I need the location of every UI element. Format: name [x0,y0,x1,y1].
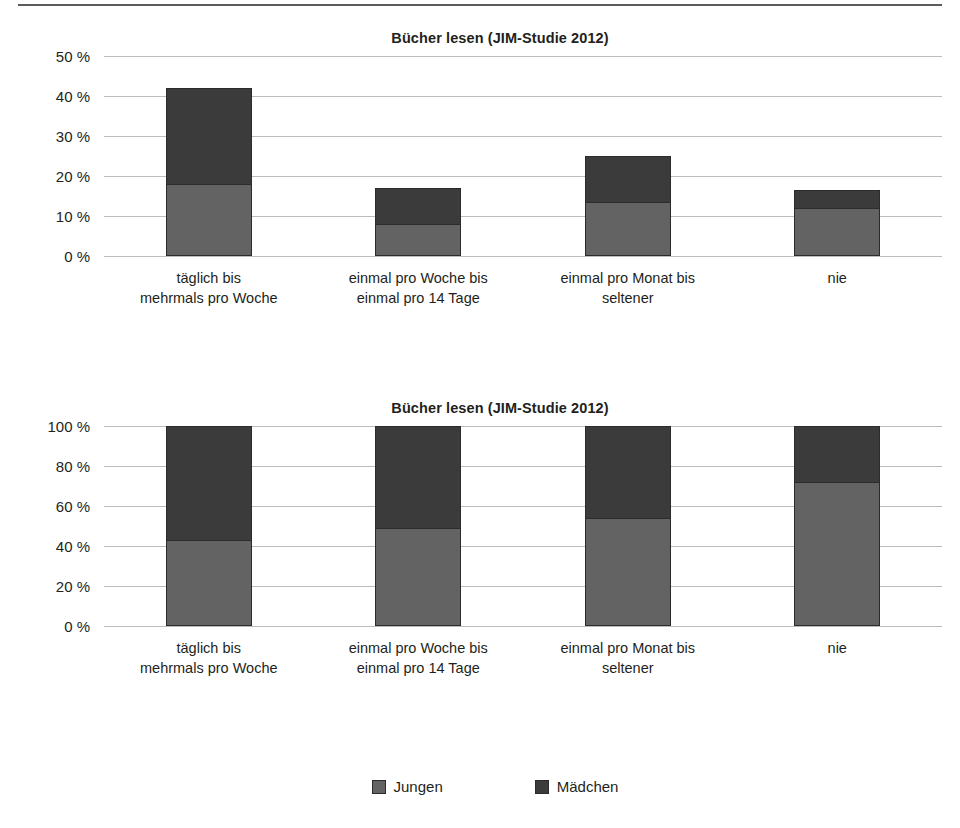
legend-item[interactable]: Jungen [372,778,443,795]
x-label-line: mehrmals pro Woche [104,658,314,678]
x-label-line: nie [733,268,943,288]
bar-segment-maedchen[interactable] [585,156,671,202]
chart-2-x-label: einmal pro Monat bisseltener [523,638,733,678]
chart-1-bar-slot [104,56,314,256]
bar-segment-jungen[interactable] [585,202,671,256]
bar-segment-jungen[interactable] [585,518,671,626]
chart-legend: JungenMädchen [0,778,960,795]
x-label-line: seltener [523,658,733,678]
chart-1-x-axis-labels: täglich bismehrmals pro Wocheeinmal pro … [104,268,942,308]
legend-item[interactable]: Mädchen [535,778,619,795]
bar-segment-maedchen[interactable] [585,426,671,518]
chart-2-plot-area [104,426,942,626]
table-row[interactable] [585,156,671,256]
table-row[interactable] [166,426,252,626]
x-label-line: einmal pro Woche bis [314,638,524,658]
x-label-line: einmal pro Woche bis [314,268,524,288]
chart-2-y-axis: 0 %20 %40 %60 %80 %100 % [0,426,98,626]
x-label-line: einmal pro Monat bis [523,638,733,658]
table-row[interactable] [375,426,461,626]
chart-2-y-tick-label: 100 % [47,418,90,435]
bar-segment-maedchen[interactable] [794,190,880,208]
x-label-line: einmal pro 14 Tage [314,658,524,678]
chart-2-x-label: täglich bismehrmals pro Woche [104,638,314,678]
bar-segment-maedchen[interactable] [375,188,461,224]
x-label-line: täglich bis [104,638,314,658]
bar-segment-jungen[interactable] [794,208,880,256]
chart-1-y-axis: 0 %10 %20 %30 %40 %50 % [0,56,98,256]
bar-segment-maedchen[interactable] [375,426,461,528]
chart-1-x-label: nie [733,268,943,308]
x-label-line: täglich bis [104,268,314,288]
chart-2-y-tick-label: 0 % [64,618,90,635]
bar-segment-maedchen[interactable] [166,88,252,184]
chart-1-plot-area [104,56,942,256]
chart-1-bar-slot [523,56,733,256]
table-row[interactable] [794,190,880,256]
chart-absolute-percentages: Bücher lesen (JIM-Studie 2012) 0 %10 %20… [0,30,960,256]
chart-2-x-label: nie [733,638,943,678]
chart-2-y-tick-label: 80 % [56,458,90,475]
table-row[interactable] [794,426,880,626]
bar-segment-jungen[interactable] [166,184,252,256]
legend-item-label: Jungen [394,778,443,795]
bar-segment-jungen[interactable] [794,482,880,626]
bar-segment-maedchen[interactable] [794,426,880,482]
x-label-line: einmal pro 14 Tage [314,288,524,308]
legend-swatch-jungen-icon [372,780,386,794]
bar-segment-jungen[interactable] [166,540,252,626]
chart-1-y-tick-label: 30 % [56,128,90,145]
bar-segment-jungen[interactable] [375,224,461,256]
chart-2-plot-wrapper: 0 %20 %40 %60 %80 %100 % täglich bismehr… [0,426,960,626]
chart-1-x-label: täglich bismehrmals pro Woche [104,268,314,308]
legend-item-label: Mädchen [557,778,619,795]
chart-2-bar-slot [733,426,943,626]
chart-1-bars [104,56,942,256]
x-label-line: einmal pro Monat bis [523,268,733,288]
chart-2-bar-slot [104,426,314,626]
chart-1-y-tick-label: 20 % [56,168,90,185]
chart-1-bar-slot [314,56,524,256]
bar-segment-maedchen[interactable] [166,426,252,540]
chart-2-bar-slot [314,426,524,626]
x-label-line: seltener [523,288,733,308]
x-label-line: nie [733,638,943,658]
chart-1-x-label: einmal pro Monat bisseltener [523,268,733,308]
chart-1-bar-slot [733,56,943,256]
chart-2-x-label: einmal pro Woche biseinmal pro 14 Tage [314,638,524,678]
table-row[interactable] [375,188,461,256]
chart-1-gridline [104,256,942,257]
chart-1-y-tick-label: 40 % [56,88,90,105]
chart-1-title: Bücher lesen (JIM-Studie 2012) [0,30,960,46]
chart-2-bar-slot [523,426,733,626]
legend-swatch-maedchen-icon [535,780,549,794]
chart-2-gridline [104,626,942,627]
chart-2-y-tick-label: 60 % [56,498,90,515]
bar-segment-jungen[interactable] [375,528,461,626]
chart-1-plot-wrapper: 0 %10 %20 %30 %40 %50 % täglich bismehrm… [0,56,960,256]
chart-1-y-tick-label: 50 % [56,48,90,65]
chart-2-y-tick-label: 40 % [56,538,90,555]
chart-1-y-tick-label: 0 % [64,248,90,265]
chart-1-x-label: einmal pro Woche biseinmal pro 14 Tage [314,268,524,308]
chart-2-bars [104,426,942,626]
table-row[interactable] [585,426,671,626]
chart-2-y-tick-label: 20 % [56,578,90,595]
table-row[interactable] [166,88,252,256]
x-label-line: mehrmals pro Woche [104,288,314,308]
page-top-rule [18,4,942,6]
chart-1-y-tick-label: 10 % [56,208,90,225]
chart-normalized-percentages: Bücher lesen (JIM-Studie 2012) 0 %20 %40… [0,400,960,626]
chart-2-title: Bücher lesen (JIM-Studie 2012) [0,400,960,416]
chart-2-x-axis-labels: täglich bismehrmals pro Wocheeinmal pro … [104,638,942,678]
